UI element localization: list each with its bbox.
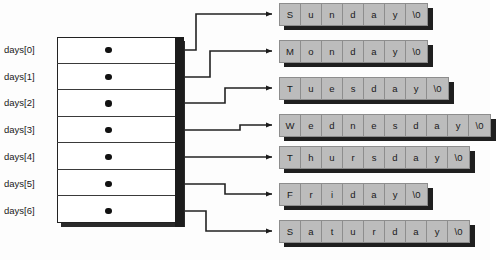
array-right-edge-shadow xyxy=(175,37,184,227)
array-cell-days1 xyxy=(57,64,181,91)
pointer-dot-days2 xyxy=(105,100,112,107)
array-cell-days0 xyxy=(57,37,181,64)
pointer-dot-days1 xyxy=(105,74,112,81)
wire-days3-wednesday xyxy=(184,125,272,130)
array-cell-days2 xyxy=(57,90,181,117)
wednesday-string-cells: Wednesday\0 xyxy=(279,114,491,137)
monday-string-char-4: a xyxy=(364,41,385,62)
array-label-days5: days[5] xyxy=(4,179,56,189)
saturday-string-char-7: y xyxy=(427,221,448,242)
tuesday-string-cells: Tuesday\0 xyxy=(279,77,449,100)
tuesday-string-char-7: \0 xyxy=(427,78,448,99)
wednesday-string-char-0: W xyxy=(280,115,301,136)
sunday-string-cells: Sunday\0 xyxy=(279,3,428,26)
wire-days2-tuesday xyxy=(184,88,272,103)
thursday-string-char-7: y xyxy=(427,147,448,168)
sunday-string-char-4: a xyxy=(364,4,385,25)
tuesday-string-char-1: u xyxy=(301,78,322,99)
monday-string: Monday\0 xyxy=(279,40,434,64)
wednesday-string-char-6: d xyxy=(406,115,427,136)
tuesday-string: Tuesday\0 xyxy=(279,77,455,101)
wednesday-string-char-4: e xyxy=(364,115,385,136)
monday-string-char-3: d xyxy=(343,41,364,62)
array-label-days1: days[1] xyxy=(4,72,56,82)
saturday-string-char-3: u xyxy=(343,221,364,242)
pointer-dot-days6 xyxy=(105,208,112,215)
thursday-string-char-1: h xyxy=(301,147,322,168)
sunday-string-char-6: \0 xyxy=(406,4,427,25)
array-label-days0: days[0] xyxy=(4,45,56,55)
wire-days5-friday xyxy=(184,184,272,194)
monday-string-char-2: n xyxy=(322,41,343,62)
pointer-dot-days0 xyxy=(105,47,112,54)
saturday-string-char-5: d xyxy=(385,221,406,242)
wire-days6-saturday xyxy=(184,211,272,231)
wire-days1-monday xyxy=(184,51,272,77)
thursday-string-char-4: s xyxy=(364,147,385,168)
friday-string-char-4: a xyxy=(364,184,385,205)
saturday-string-char-4: r xyxy=(364,221,385,242)
sunday-string-char-1: u xyxy=(301,4,322,25)
array-cell-days6 xyxy=(57,196,181,223)
tuesday-string-char-5: a xyxy=(385,78,406,99)
thursday-string: Thursday\0 xyxy=(279,146,476,170)
monday-string-char-1: o xyxy=(301,41,322,62)
friday-string-char-2: i xyxy=(322,184,343,205)
saturday-string-cells: Saturday\0 xyxy=(279,220,470,243)
friday-string-char-3: d xyxy=(343,184,364,205)
wednesday-string-char-1: e xyxy=(301,115,322,136)
array-label-days3: days[3] xyxy=(4,125,56,135)
monday-string-char-5: y xyxy=(385,41,406,62)
thursday-string-char-3: r xyxy=(343,147,364,168)
pointer-dot-days5 xyxy=(105,181,112,188)
array-label-days2: days[2] xyxy=(4,98,56,108)
saturday-string-char-6: a xyxy=(406,221,427,242)
sunday-string-char-5: y xyxy=(385,4,406,25)
sunday-string-char-0: S xyxy=(280,4,301,25)
friday-string-char-0: F xyxy=(280,184,301,205)
friday-string-cells: Friday\0 xyxy=(279,183,428,206)
friday-string-char-5: y xyxy=(385,184,406,205)
friday-string-char-1: r xyxy=(301,184,322,205)
wednesday-string-char-8: y xyxy=(448,115,469,136)
tuesday-string-char-0: T xyxy=(280,78,301,99)
thursday-string-char-0: T xyxy=(280,147,301,168)
sunday-string-char-3: d xyxy=(343,4,364,25)
friday-string: Friday\0 xyxy=(279,183,434,207)
wednesday-string-char-7: a xyxy=(427,115,448,136)
wednesday-string-char-2: d xyxy=(322,115,343,136)
pointer-dot-days3 xyxy=(105,127,112,134)
array-cell-days3 xyxy=(57,117,181,144)
tuesday-string-char-4: d xyxy=(364,78,385,99)
wednesday-string-char-5: s xyxy=(385,115,406,136)
wire-days0-sunday xyxy=(184,14,272,50)
wednesday-string-char-3: n xyxy=(343,115,364,136)
thursday-string-char-6: a xyxy=(406,147,427,168)
sunday-string-char-2: n xyxy=(322,4,343,25)
array-cell-days5 xyxy=(57,170,181,197)
saturday-string-char-0: S xyxy=(280,221,301,242)
tuesday-string-char-3: s xyxy=(343,78,364,99)
array-label-days6: days[6] xyxy=(4,206,56,216)
array-cell-days4 xyxy=(57,143,181,170)
tuesday-string-char-6: y xyxy=(406,78,427,99)
saturday-string-char-1: a xyxy=(301,221,322,242)
sunday-string: Sunday\0 xyxy=(279,3,434,27)
monday-string-cells: Monday\0 xyxy=(279,40,428,63)
thursday-string-char-5: d xyxy=(385,147,406,168)
pointer-dot-days4 xyxy=(105,154,112,161)
monday-string-char-6: \0 xyxy=(406,41,427,62)
saturday-string-char-8: \0 xyxy=(448,221,469,242)
thursday-string-cells: Thursday\0 xyxy=(279,146,470,169)
saturday-string-char-2: t xyxy=(322,221,343,242)
saturday-string: Saturday\0 xyxy=(279,220,476,244)
wednesday-string: Wednesday\0 xyxy=(279,114,497,138)
friday-string-char-6: \0 xyxy=(406,184,427,205)
array-label-days4: days[4] xyxy=(4,152,56,162)
tuesday-string-char-2: e xyxy=(322,78,343,99)
wednesday-string-char-9: \0 xyxy=(469,115,490,136)
thursday-string-char-8: \0 xyxy=(448,147,469,168)
monday-string-char-0: M xyxy=(280,41,301,62)
thursday-string-char-2: u xyxy=(322,147,343,168)
